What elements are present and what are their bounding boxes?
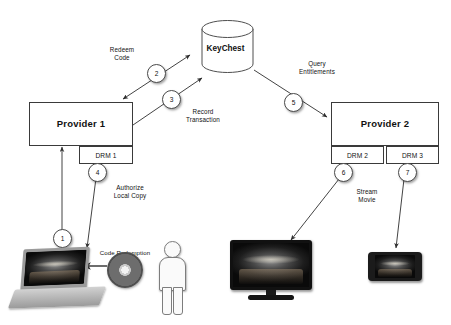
label-query-entitlements: Query Entitlements bbox=[286, 60, 348, 75]
laptop-device[interactable] bbox=[12, 248, 104, 310]
drm-3-label: DRM 3 bbox=[402, 152, 423, 159]
step-badge-6[interactable]: 6 bbox=[334, 163, 353, 182]
drm-3-box[interactable]: DRM 3 bbox=[386, 146, 439, 164]
movie-artwork bbox=[233, 243, 309, 287]
movie-artwork bbox=[375, 255, 415, 278]
label-authorize-local-copy: Authorize Local Copy bbox=[102, 184, 158, 199]
tv-stand bbox=[248, 295, 294, 300]
laptop-screen bbox=[24, 250, 87, 287]
step-number: 6 bbox=[342, 169, 346, 176]
person-leg-right bbox=[173, 287, 183, 315]
television-device[interactable] bbox=[230, 240, 312, 302]
step-badge-7[interactable]: 7 bbox=[398, 163, 417, 182]
provider-1-label: Provider 1 bbox=[29, 118, 133, 129]
person-leg-left bbox=[162, 287, 172, 315]
drm-2-label: DRM 2 bbox=[347, 152, 368, 159]
person-head bbox=[164, 241, 181, 258]
laptop-keyboard-base bbox=[8, 286, 106, 308]
phone-screen bbox=[375, 255, 415, 278]
provider-2-label: Provider 2 bbox=[331, 118, 439, 129]
step-number: 7 bbox=[406, 169, 410, 176]
person-torso bbox=[159, 257, 186, 291]
step-number: 2 bbox=[155, 70, 159, 77]
step-badge-2[interactable]: 2 bbox=[147, 64, 166, 83]
step-number: 4 bbox=[96, 169, 100, 176]
step-badge-4[interactable]: 4 bbox=[88, 163, 107, 182]
smartphone-device[interactable] bbox=[368, 252, 422, 281]
step-badge-3[interactable]: 3 bbox=[162, 90, 181, 109]
laptop-screen-bezel bbox=[20, 247, 90, 292]
diagram-canvas: KeyChest Provider 1 DRM 1 Provider 2 DRM… bbox=[0, 0, 451, 325]
tv-bezel bbox=[230, 240, 312, 290]
step-badge-5[interactable]: 5 bbox=[284, 93, 303, 112]
person-figure bbox=[155, 241, 187, 313]
tv-screen bbox=[233, 243, 309, 287]
step-badge-1[interactable]: 1 bbox=[53, 229, 72, 248]
movie-artwork bbox=[24, 250, 87, 287]
step-number: 1 bbox=[61, 235, 65, 242]
step-number: 3 bbox=[170, 96, 174, 103]
drm-1-box[interactable]: DRM 1 bbox=[79, 146, 133, 164]
step-number: 5 bbox=[292, 99, 296, 106]
drm-1-label: DRM 1 bbox=[95, 152, 116, 159]
drm-2-box[interactable]: DRM 2 bbox=[331, 146, 384, 164]
label-redeem-code: Redeem Code bbox=[96, 46, 148, 61]
optical-disc[interactable] bbox=[107, 252, 143, 288]
label-stream-movie: Stream Movie bbox=[346, 188, 388, 203]
label-record-transaction: Record Transaction bbox=[173, 108, 233, 123]
keychest-label: KeyChest bbox=[0, 44, 451, 53]
